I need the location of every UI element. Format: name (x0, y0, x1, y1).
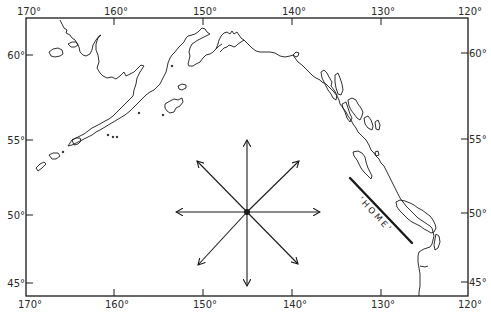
origin-point (244, 209, 250, 215)
map-figure: 170° 160° 150° 140° 130° 120° 170° 160° … (0, 0, 491, 313)
island-aleutian-1 (49, 153, 60, 159)
island-dot-6 (162, 114, 164, 116)
lon-label-120-bottom: 120° (458, 299, 482, 310)
bottom-longitude-labels: 170° 160° 150° 140° 130° 120° (18, 299, 482, 310)
coastline-gulf-of-alaska (244, 40, 322, 82)
bottom-longitude-ticks (114, 289, 381, 296)
island-nunivak (49, 48, 63, 57)
island-small-bc (375, 151, 379, 156)
right-latitude-labels: 60° 55° 50° 45° (469, 48, 487, 288)
arrow-northeast (247, 161, 299, 212)
island-chichagof (321, 70, 337, 100)
compass-rose (176, 140, 320, 286)
lat-label-60-left: 60° (7, 50, 25, 61)
island-kodiak (165, 98, 183, 113)
island-haida-gwaii (353, 151, 372, 179)
island-dot-1 (107, 134, 109, 136)
right-latitude-ticks (461, 53, 468, 282)
arrow-southwest (198, 212, 247, 265)
lat-label-50-left: 50° (7, 210, 25, 221)
lon-label-150-top: 150° (193, 6, 217, 17)
island-dot-4 (62, 151, 64, 153)
island-revillagigedo (364, 116, 373, 130)
lon-label-170-bottom: 170° (18, 299, 42, 310)
coastline-western-alaska (60, 20, 144, 146)
lat-label-45-left: 45° (7, 278, 25, 289)
map-canvas: 170° 160° 150° 140° 130° 120° 170° 160° … (0, 0, 491, 313)
lat-label-55-right: 55° (469, 134, 487, 145)
top-longitude-labels: 170° 160° 150° 140° 130° 120° (17, 6, 482, 17)
coastline-puget-sound (434, 234, 440, 250)
island-dot-7 (171, 65, 173, 67)
lon-label-140-top: 140° (282, 6, 306, 17)
lon-label-160-top: 160° (104, 6, 128, 17)
island-afognak (178, 84, 186, 90)
top-longitude-ticks (114, 18, 381, 25)
arrow-northwest (197, 161, 247, 212)
lon-label-120-top: 120° (458, 6, 482, 17)
coastline-columbia-river (420, 266, 428, 267)
lon-label-150-bottom: 150° (193, 299, 217, 310)
coastline-prince-william-sound (216, 31, 244, 52)
home-line (350, 178, 412, 243)
lat-label-45-right: 45° (469, 277, 487, 288)
island-dot-3 (116, 136, 118, 138)
lon-label-130-top: 130° (371, 6, 395, 17)
island-misc-panhandle (375, 120, 380, 130)
lon-label-160-bottom: 160° (105, 299, 129, 310)
lat-label-50-right: 50° (469, 208, 487, 219)
home-label: 'HOME' (357, 195, 395, 235)
coastlines (36, 20, 440, 296)
lat-label-60-right: 60° (469, 48, 487, 59)
left-latitude-ticks (26, 55, 33, 283)
island-prince-of-wales (348, 98, 363, 120)
island-baranof (335, 73, 343, 95)
island-dot-5 (138, 112, 140, 114)
home-marker: 'HOME' (350, 178, 412, 243)
lat-label-55-left: 55° (7, 135, 25, 146)
lon-label-170-top: 170° (17, 6, 41, 17)
island-dot-2 (112, 136, 114, 138)
coastline-panhandle (322, 82, 434, 296)
island-aleutian-2 (36, 162, 46, 171)
lon-label-130-bottom: 130° (371, 299, 395, 310)
arrow-southeast (247, 212, 298, 264)
lon-label-140-bottom: 140° (283, 299, 307, 310)
island-small-bering (68, 42, 78, 47)
left-latitude-labels: 60° 55° 50° 45° (7, 50, 25, 289)
